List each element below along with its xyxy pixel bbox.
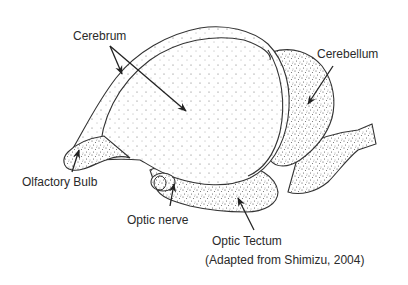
optic-nerve-shape xyxy=(151,173,175,191)
arrow-cerebrum-1 xyxy=(110,46,122,74)
figure-caption: (Adapted from Shimizu, 2004) xyxy=(205,253,364,267)
label-optic-tectum: Optic Tectum xyxy=(212,234,282,248)
brain-diagram: Cerebrum Cerebellum Olfactory Bulb Optic… xyxy=(0,0,408,285)
label-olfactory-bulb: Olfactory Bulb xyxy=(22,175,98,189)
label-cerebrum: Cerebrum xyxy=(73,29,126,43)
label-optic-nerve: Optic nerve xyxy=(127,213,189,227)
label-cerebellum: Cerebellum xyxy=(317,47,378,61)
